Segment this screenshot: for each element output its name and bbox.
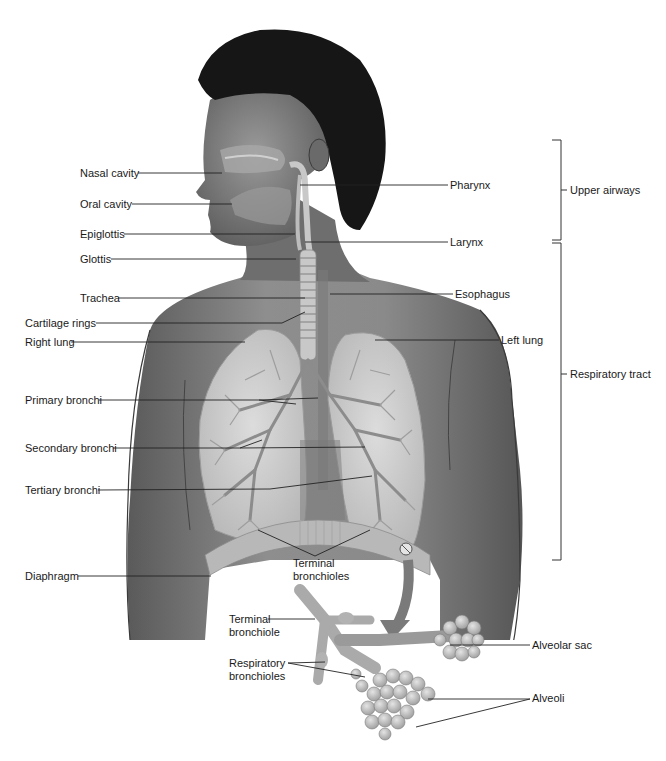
label-nasal-cavity: Nasal cavity [80,167,139,180]
label-upper-airways: Upper airways [570,184,640,197]
label-left-lung: Left lung [501,334,543,347]
label-oral-cavity: Oral cavity [80,198,132,211]
label-alveoli: Alveoli [532,692,564,705]
label-right-lung: Right lung [25,336,75,349]
label-alveolar-sac: Alveolar sac [532,639,592,652]
label-trachea: Trachea [80,292,120,305]
label-respiratory-bronchioles: Respiratory bronchioles [229,657,289,683]
label-esophagus: Esophagus [455,288,510,301]
label-cartilage-rings: Cartilage rings [25,317,96,330]
label-terminal-bronchioles: Terminal bronchioles [293,557,353,583]
label-primary-bronchi: Primary bronchi [25,394,102,407]
respiratory-diagram: Nasal cavity Oral cavity Epiglottis Glot… [0,0,666,761]
label-secondary-bronchi: Secondary bronchi [25,442,117,455]
brackets [552,140,567,560]
label-diaphragm: Diaphragm [25,570,79,583]
label-respiratory-tract: Respiratory tract [570,368,651,381]
label-larynx: Larynx [450,236,483,249]
label-terminal-bronchiole: Terminal bronchiole [229,613,283,639]
label-glottis: Glottis [80,253,111,266]
label-epiglottis: Epiglottis [80,228,125,241]
label-pharynx: Pharynx [450,179,490,192]
label-tertiary-bronchi: Tertiary bronchi [25,484,100,497]
